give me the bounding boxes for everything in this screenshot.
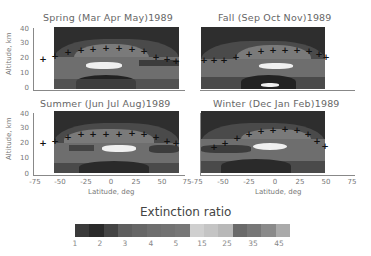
x-tick-label: -50 [213,178,233,186]
y-axis [33,28,34,90]
tropopause-marker: + [233,134,241,143]
tropopause-marker: + [281,125,289,134]
x-tick-label: -75 [187,178,207,186]
tropopause-marker: + [152,53,160,62]
y-tick-label: 10 [17,154,29,162]
y-tick-label: 30 [17,39,29,47]
panel-title: Fall (Sep Oct Nov)1989 [218,12,332,23]
tropopause-marker: + [304,130,312,139]
x-tick-label: 50 [152,178,172,186]
y-tick-label: 20 [17,139,29,147]
tropopause-marker: + [128,45,136,54]
y-tick-label: 30 [17,124,29,132]
tropopause-marker: + [281,46,289,55]
y-tick-label: 0 [17,84,29,92]
colorbar-label: 25 [219,239,235,248]
tropopause-marker: + [210,143,218,152]
tropopause-marker: + [140,130,148,139]
x-axis-title: Latitude, deg [88,188,134,196]
colorbar [75,224,290,237]
y-axis-title: Altitude, km [5,32,13,75]
heatmap-spring [54,27,179,89]
colorbar-label: 15 [194,239,210,248]
colorbar-label: 1 [67,239,83,248]
tropopause-marker: + [245,130,253,139]
x-tick-label: 0 [265,178,285,186]
x-tick-label: 0 [101,178,121,186]
tropopause-marker: + [293,126,301,135]
x-axis-title: Latitude, deg [255,188,301,196]
tropopause-marker: + [321,142,329,151]
colorbar-label: 3 [117,239,133,248]
x-tick-label: -25 [239,178,259,186]
colorbar-label: 5 [168,239,184,248]
x-tick-label: 25 [290,178,310,186]
tropopause-marker: + [77,130,85,139]
tropopause-marker: + [172,139,180,148]
y-tick-label: 0 [17,170,29,178]
x-axis [200,90,355,91]
panel-title: Winter (Dec Jan Feb)1989 [213,98,340,109]
tropopause-marker: + [200,56,208,65]
tropopause-marker: + [115,44,123,53]
tropopause-marker: + [313,137,321,146]
tropopause-marker: + [152,133,160,142]
tropopause-marker: + [220,56,228,65]
x-axis [33,175,185,176]
x-tick-label: -75 [25,178,45,186]
tropopause-marker: + [257,127,265,136]
tropopause-marker: + [245,50,253,59]
tropopause-marker: + [269,46,277,55]
colorbar-label: 45 [271,239,287,248]
colorbar-label: 35 [245,239,261,248]
tropopause-marker: + [128,129,136,138]
tropopause-marker: + [210,56,218,65]
tropopause-marker: + [293,46,301,55]
tropopause-marker: + [89,130,97,139]
y-tick-label: 10 [17,69,29,77]
tropopause-marker: + [115,130,123,139]
y-axis-title: Altitude, km [5,117,13,160]
tropopause-marker: + [172,57,180,66]
x-axis [200,175,355,176]
x-tick-label: -25 [76,178,96,186]
x-tick-label: -50 [50,178,70,186]
heatmap-summer [54,111,179,173]
x-tick-label: 25 [126,178,146,186]
tropopause-marker: + [140,47,148,56]
tropopause-marker: + [77,46,85,55]
tropopause-marker: + [102,130,110,139]
x-axis [33,90,185,91]
y-axis [33,113,34,175]
tropopause-marker: + [102,44,110,53]
colorbar-label: 2 [92,239,108,248]
tropopause-marker: + [51,52,59,61]
y-tick-label: 40 [17,110,29,118]
tropopause-marker: + [322,53,330,62]
y-tick-label: 20 [17,54,29,62]
tropopause-marker: + [89,45,97,54]
tropopause-marker: + [221,139,229,148]
tropopause-marker: + [305,47,313,56]
tropopause-marker: + [269,126,277,135]
tropopause-marker: + [163,137,171,146]
tropopause-marker: + [39,55,47,64]
panel-title: Summer (Jun Jul Aug)1989 [40,98,171,109]
x-tick-label: 50 [316,178,336,186]
x-tick-label: 75 [342,178,362,186]
colorbar-title: Extinction ratio [140,205,231,219]
tropopause-marker: + [64,48,72,57]
tropopause-marker: + [232,53,240,62]
heatmap-winter [201,111,325,173]
tropopause-marker: + [163,55,171,64]
tropopause-marker: + [64,133,72,142]
tropopause-marker: + [39,139,47,148]
colorbar-label: 4 [143,239,159,248]
panel-title: Spring (Mar Apr May)1989 [43,12,173,23]
tropopause-marker: + [51,137,59,146]
y-tick-label: 40 [17,25,29,33]
tropopause-marker: + [257,47,265,56]
